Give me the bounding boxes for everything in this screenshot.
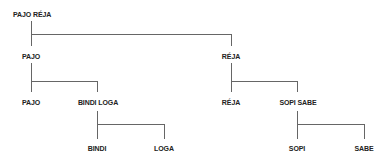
node-l2-right-a: RÉJA	[222, 99, 240, 106]
node-l1-left: PAJO	[22, 53, 40, 60]
node-l3-right-b: SABE	[354, 145, 373, 152]
node-l2-right-b: SOPI SABE	[279, 99, 316, 106]
node-l2-left-b: BINDI LOGA	[78, 99, 118, 106]
word-tree-diagram: PAJO RÉJA PAJO RÉJA PAJO BINDI LOGA RÉJA…	[0, 0, 384, 160]
node-l3-left-b: LOGA	[154, 145, 174, 152]
node-root: PAJO RÉJA	[13, 11, 51, 18]
node-l1-right: RÉJA	[222, 53, 240, 60]
node-l2-left-a: PAJO	[22, 99, 40, 106]
node-l3-left-a: BINDI	[88, 145, 107, 152]
node-l3-right-a: SOPI	[289, 145, 305, 152]
tree-connectors	[0, 0, 384, 160]
